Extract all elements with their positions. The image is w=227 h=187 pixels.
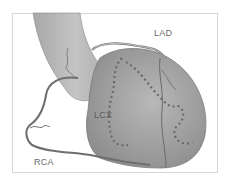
label-rca: RCA: [34, 157, 54, 167]
label-lad: LAD: [154, 28, 172, 38]
heart-body: [87, 48, 206, 168]
label-lcx: LCX: [94, 110, 112, 120]
